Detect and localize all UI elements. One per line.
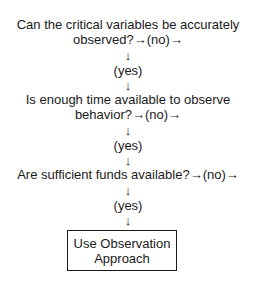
result-line-2: Approach <box>68 251 176 266</box>
result-line-1: Use Observation <box>68 236 176 251</box>
down-arrow-icon: ↓ <box>0 123 256 138</box>
result-box: Use Observation Approach <box>67 230 177 271</box>
question-1-line-2: observed?→(no)→ <box>0 32 256 47</box>
yes-label-2: (yes) <box>0 138 256 153</box>
yes-label-3: (yes) <box>0 198 256 213</box>
down-arrow-icon: ↓ <box>0 78 256 93</box>
down-arrow-icon: ↓ <box>0 153 256 168</box>
question-3-line-1: Are sufficient funds available?→(no)→ <box>0 167 256 182</box>
down-arrow-icon: ↓ <box>0 48 256 63</box>
yes-label-1: (yes) <box>0 63 256 78</box>
question-1-line-1: Can the critical variables be accurately <box>0 17 256 32</box>
down-arrow-icon: ↓ <box>0 213 256 228</box>
down-arrow-icon: ↓ <box>0 183 256 198</box>
question-2-line-2: behavior?→(no)→ <box>0 107 256 122</box>
question-2-line-1: Is enough time available to observe <box>0 92 256 107</box>
